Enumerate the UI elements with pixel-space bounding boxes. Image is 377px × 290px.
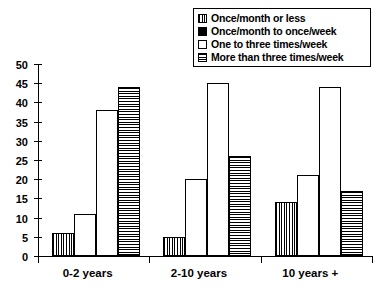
legend-item-one-to-three-times-week: One to three times/week (198, 38, 366, 50)
bar (207, 83, 229, 256)
x-category-label: 10 years + (282, 266, 338, 280)
legend-label: More than three times/week (211, 52, 344, 63)
bar-group (52, 64, 162, 256)
x-axis-category-labels: 0-2 years2-10 years10 years + (38, 266, 372, 284)
bar (275, 202, 297, 256)
bar (229, 156, 251, 256)
bar (118, 87, 140, 256)
plot-area: 05101520253035404550 (38, 64, 372, 256)
bar (96, 110, 118, 256)
x-axis (38, 256, 372, 257)
bar (297, 175, 319, 256)
legend-label: Once/month to once/week (211, 26, 337, 37)
x-category-label: 2-10 years (171, 266, 227, 280)
legend-item-once-month-to-once-week: Once/month to once/week (198, 25, 366, 37)
bar (319, 87, 341, 256)
y-tick-label: 50 (16, 60, 28, 71)
legend-item-more-than-three-times-week: More than three times/week (198, 51, 366, 63)
y-tick-label: 25 (16, 156, 28, 167)
legend-swatch-horizontal-hatch-icon (198, 53, 207, 62)
bar-chart: Once/month or less Once/month to once/we… (0, 0, 377, 290)
y-tick-label: 10 (16, 213, 28, 224)
legend-label: One to three times/week (211, 39, 327, 50)
y-tick-label: 40 (16, 98, 28, 109)
chart-legend: Once/month or less Once/month to once/we… (193, 8, 371, 67)
y-tick-label: 5 (22, 232, 28, 243)
bar-group (275, 64, 377, 256)
bar (74, 214, 96, 256)
y-tick-label: 30 (16, 136, 28, 147)
legend-item-once-month-or-less: Once/month or less (198, 12, 366, 24)
y-tick-label: 0 (22, 252, 28, 263)
x-tick (372, 256, 373, 263)
bar (163, 237, 185, 256)
x-tick (149, 256, 150, 263)
y-tick-label: 45 (16, 79, 28, 90)
bar (341, 191, 363, 256)
x-category-label: 0-2 years (63, 266, 113, 280)
y-tick-label: 35 (16, 117, 28, 128)
bar-group (163, 64, 273, 256)
legend-swatch-solid-black-icon (198, 27, 207, 36)
legend-swatch-white-icon (198, 40, 207, 49)
legend-swatch-vertical-hatch-icon (198, 14, 207, 23)
bar-series-container (38, 64, 372, 256)
y-tick-label: 20 (16, 175, 28, 186)
x-tick (261, 256, 262, 263)
x-tick (38, 256, 39, 263)
bar (52, 233, 74, 256)
legend-label: Once/month or less (211, 13, 305, 24)
y-tick-label: 15 (16, 194, 28, 205)
bar (185, 179, 207, 256)
